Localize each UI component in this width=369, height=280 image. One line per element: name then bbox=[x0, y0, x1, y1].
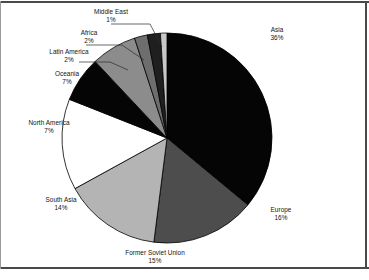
pie-label-north-america-name: North America bbox=[6, 119, 92, 127]
pie-chart: Middle East 1% Africa 2% Latin America 2… bbox=[0, 0, 369, 280]
pie-label-latin-america-name: Latin America bbox=[26, 48, 112, 56]
pie-label-north-america: North America 7% bbox=[6, 119, 92, 135]
pie-label-south-asia: South Asia 14% bbox=[22, 196, 100, 212]
pie-label-north-america-pct: 7% bbox=[6, 127, 92, 135]
pie-label-middle-east: Middle East 1% bbox=[72, 8, 150, 24]
pie-label-africa: Africa 2% bbox=[50, 29, 128, 45]
pie-label-asia-name: Asia bbox=[244, 26, 310, 34]
pie-label-oceania: Oceania 7% bbox=[28, 70, 106, 86]
pie-label-latin-america: Latin America 2% bbox=[26, 48, 112, 64]
pie-label-latin-america-pct: 2% bbox=[26, 56, 112, 64]
pie-label-europe-pct: 16% bbox=[248, 214, 314, 222]
chart-page: Middle East 1% Africa 2% Latin America 2… bbox=[0, 0, 369, 280]
pie-label-africa-pct: 2% bbox=[50, 37, 128, 45]
pie-label-europe-name: Europe bbox=[248, 206, 314, 214]
pie-label-europe: Europe 16% bbox=[248, 206, 314, 222]
pie-label-asia: Asia 36% bbox=[244, 26, 310, 42]
pie-label-asia-pct: 36% bbox=[244, 34, 310, 42]
pie-label-former-soviet-union-pct: 15% bbox=[101, 257, 209, 265]
pie-label-former-soviet-union-name: Former Soviet Union bbox=[101, 249, 209, 257]
pie-label-africa-name: Africa bbox=[50, 29, 128, 37]
pie-label-oceania-name: Oceania bbox=[28, 70, 106, 78]
pie-label-middle-east-pct: 1% bbox=[72, 16, 150, 24]
pie-label-south-asia-name: South Asia bbox=[22, 196, 100, 204]
pie-label-former-soviet-union: Former Soviet Union 15% bbox=[101, 249, 209, 265]
pie-label-oceania-pct: 7% bbox=[28, 78, 106, 86]
pie-label-south-asia-pct: 14% bbox=[22, 204, 100, 212]
pie-label-middle-east-name: Middle East bbox=[72, 8, 150, 16]
